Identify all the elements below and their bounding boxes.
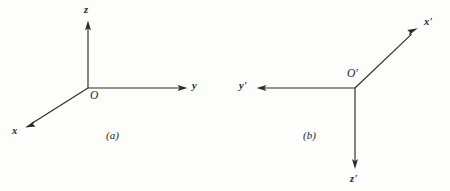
z-axis-arrow xyxy=(85,21,91,89)
origin-label-o-prime: O' xyxy=(347,68,358,80)
coordinate-axes-figure: z y x O (a) x' y' z' O' (b) xyxy=(0,0,450,191)
y-prime-axis-arrow xyxy=(257,85,356,91)
x-axis-arrow xyxy=(25,88,88,128)
x-prime-axis-arrow xyxy=(355,28,418,88)
panel-a-axes xyxy=(25,21,188,128)
origin-label-o: O xyxy=(90,90,98,102)
z-axis-label: z xyxy=(84,5,88,16)
y-axis-label: y xyxy=(192,81,197,92)
panel-caption-b: (b) xyxy=(303,130,316,141)
figure-drawing-canvas xyxy=(0,0,450,191)
x-axis-label: x xyxy=(12,126,17,137)
z-prime-axis-label: z' xyxy=(350,174,357,185)
x-prime-axis-label: x' xyxy=(424,17,432,28)
y-axis-arrow xyxy=(88,85,188,91)
z-prime-axis-arrow xyxy=(352,88,358,169)
panel-caption-a: (a) xyxy=(106,130,119,141)
y-prime-axis-label: y' xyxy=(239,81,247,92)
panel-b-axes xyxy=(257,28,418,169)
